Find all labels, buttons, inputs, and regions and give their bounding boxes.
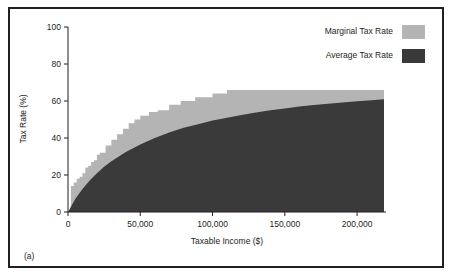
figure-panel: 020406080100 050,000100,000150,000200,00… bbox=[0, 0, 452, 276]
y-axis-ticks: 020406080100 bbox=[47, 22, 68, 217]
chart-legend: Marginal Tax Rate Average Tax Rate bbox=[325, 25, 425, 63]
x-tick-label: 150,000 bbox=[269, 219, 300, 229]
y-tick-label: 0 bbox=[56, 207, 61, 217]
legend-swatch-marginal bbox=[402, 25, 425, 39]
x-tick-label: 100,000 bbox=[197, 219, 228, 229]
y-tick-label: 100 bbox=[47, 22, 61, 32]
x-tick-label: 0 bbox=[66, 219, 71, 229]
x-tick-label: 200,000 bbox=[342, 219, 373, 229]
tax-rate-chart: 020406080100 050,000100,000150,000200,00… bbox=[10, 9, 446, 270]
y-tick-label: 20 bbox=[52, 170, 62, 180]
y-tick-label: 40 bbox=[52, 133, 62, 143]
x-tick-label: 50,000 bbox=[127, 219, 153, 229]
y-tick-label: 80 bbox=[52, 59, 62, 69]
figure-border: 020406080100 050,000100,000150,000200,00… bbox=[8, 7, 444, 268]
y-axis-label: Tax Rate (%) bbox=[18, 94, 28, 143]
legend-swatch-average bbox=[402, 49, 425, 63]
y-tick-label: 60 bbox=[52, 96, 62, 106]
x-axis-ticks: 050,000100,000150,000200,000 bbox=[66, 212, 373, 229]
x-axis-label: Taxable Income ($) bbox=[191, 236, 263, 246]
legend-label-marginal: Marginal Tax Rate bbox=[325, 26, 394, 36]
legend-label-average: Average Tax Rate bbox=[326, 50, 394, 60]
plot-area: 020406080100 050,000100,000150,000200,00… bbox=[10, 9, 442, 266]
panel-label: (a) bbox=[24, 251, 35, 261]
